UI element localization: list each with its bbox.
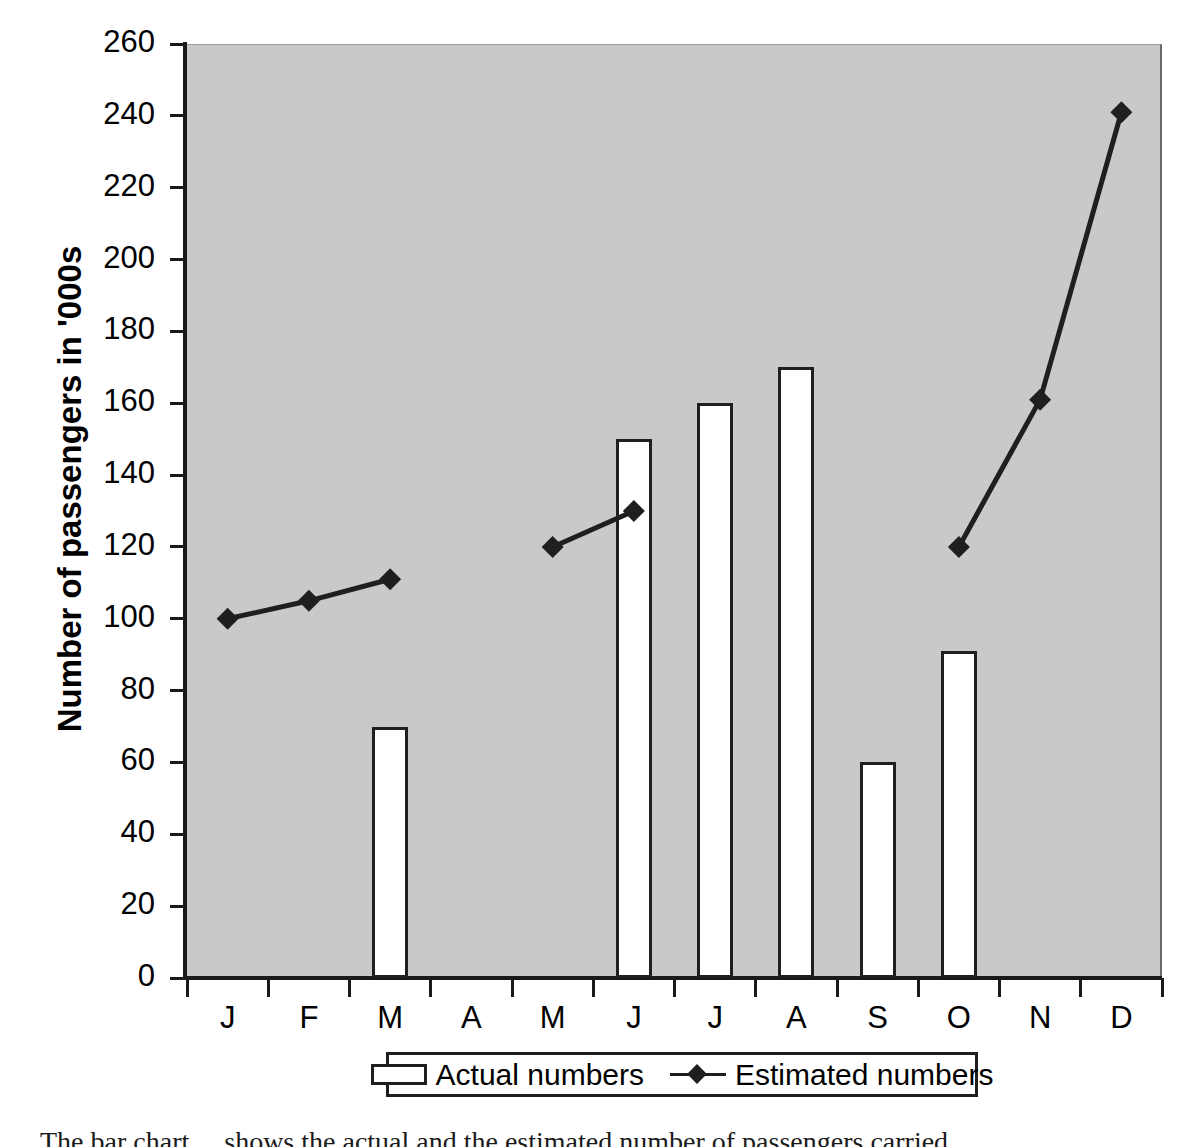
x-axis-tick [186, 978, 189, 997]
legend-label-actual-numbers: Actual numbers [436, 1058, 644, 1092]
x-axis-tick-label: J [187, 1000, 268, 1036]
x-axis-tick-label: N [1000, 1000, 1081, 1036]
bar-s-8 [860, 762, 896, 978]
x-axis-tick [754, 978, 757, 997]
y-axis-tick [170, 186, 187, 189]
y-axis-tick-value: 200 [103, 240, 155, 276]
y-axis-line [183, 42, 187, 980]
x-axis-tick [348, 978, 351, 997]
x-axis-tick-label: A [431, 1000, 512, 1036]
x-axis-tick-label: S [837, 1000, 918, 1036]
y-axis-tick-value: 240 [103, 96, 155, 132]
y-axis-tick [170, 977, 187, 980]
x-axis-tick [267, 978, 270, 997]
x-axis-tick [917, 978, 920, 997]
bar-m-2 [372, 727, 408, 978]
y-axis-tick [170, 114, 187, 117]
y-axis-tick-value: 140 [103, 455, 155, 491]
chart-legend: Actual numbers Estimated numbers [386, 1052, 978, 1097]
y-axis-tick-value: 0 [138, 958, 155, 994]
x-axis-tick-label: O [918, 1000, 999, 1036]
legend-item-estimated-numbers: Estimated numbers [670, 1058, 993, 1092]
y-axis-tick-value: 40 [121, 814, 155, 850]
x-axis-tick-label: J [593, 1000, 674, 1036]
y-axis-tick-value: 160 [103, 383, 155, 419]
line-diamond-swatch-icon [670, 1064, 726, 1085]
y-axis-tick [170, 833, 187, 836]
y-axis-tick-value: 100 [103, 599, 155, 635]
x-axis-tick-label: A [756, 1000, 837, 1036]
y-axis-tick-value: 80 [121, 671, 155, 707]
bar-swatch-icon [371, 1064, 427, 1085]
legend-item-actual-numbers: Actual numbers [371, 1058, 644, 1092]
y-axis-tick [170, 258, 187, 261]
bar-a-7 [778, 367, 814, 978]
x-axis-tick-label: D [1081, 1000, 1162, 1036]
y-axis-tick [170, 617, 187, 620]
y-axis-tick [170, 43, 187, 46]
y-axis-tick [170, 330, 187, 333]
bar-j-5 [616, 439, 652, 978]
plot-area [187, 44, 1162, 978]
y-axis-tick [170, 545, 187, 548]
y-axis-tick-value: 180 [103, 311, 155, 347]
x-axis-tick [592, 978, 595, 997]
x-axis-tick [1079, 978, 1082, 997]
y-axis-tick [170, 474, 187, 477]
y-axis-tick-value: 20 [121, 886, 155, 922]
y-axis-tick-value: 60 [121, 742, 155, 778]
y-axis-tick-value: 220 [103, 168, 155, 204]
y-axis-tick [170, 761, 187, 764]
figure-caption: The bar chart ... shows the actual and t… [40, 1126, 1170, 1147]
bar-j-6 [697, 403, 733, 978]
x-axis-tick [1161, 978, 1164, 997]
y-axis-tick-value: 260 [103, 24, 155, 60]
x-axis-tick-label: M [350, 1000, 431, 1036]
y-axis-tick [170, 402, 187, 405]
y-axis-title: Number of passengers in '000s [51, 239, 89, 739]
x-axis-tick [673, 978, 676, 997]
x-axis-tick-label: J [675, 1000, 756, 1036]
legend-label-estimated-numbers: Estimated numbers [735, 1058, 993, 1092]
x-axis-tick-label: F [268, 1000, 349, 1036]
y-axis-tick [170, 905, 187, 908]
x-axis-tick [511, 978, 514, 997]
x-axis-tick [836, 978, 839, 997]
x-axis-tick-label: M [512, 1000, 593, 1036]
y-axis-tick-value: 120 [103, 527, 155, 563]
x-axis-tick [998, 978, 1001, 997]
chart-container: Number of passengers in '000s 0204060801… [0, 0, 1194, 1147]
bar-o-9 [941, 651, 977, 978]
y-axis-tick [170, 689, 187, 692]
x-axis-tick [429, 978, 432, 997]
